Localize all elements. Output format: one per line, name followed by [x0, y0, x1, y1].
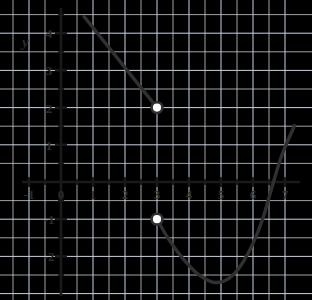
x-tick-label-6: 6 — [250, 187, 257, 202]
y-tick-label--2: -2 — [44, 249, 55, 264]
graph-figure: -101234567-2-11234 y — [0, 0, 312, 300]
y-tick-label-3: 3 — [46, 63, 53, 78]
x-tick-label-3: 3 — [154, 187, 161, 202]
x-tick-label--1: -1 — [24, 187, 35, 202]
y-tick-label-2: 2 — [46, 101, 53, 116]
y-tick-label--1: -1 — [44, 212, 55, 227]
x-tick-label-7: 7 — [282, 187, 289, 202]
x-tick-label-2: 2 — [122, 187, 129, 202]
x-tick-label-5: 5 — [218, 187, 225, 202]
y-tick-label-4: 4 — [46, 26, 53, 41]
y-axis-label: y — [20, 34, 29, 50]
x-tick-label-4: 4 — [186, 187, 193, 202]
x-tick-label-0: 0 — [58, 187, 65, 202]
y-tick-label-1: 1 — [46, 138, 53, 153]
coordinate-plane-svg: -101234567-2-11234 y — [0, 0, 312, 300]
x-tick-label-1: 1 — [90, 187, 97, 202]
open-circle-lower — [152, 214, 163, 225]
open-circle-upper — [152, 102, 163, 113]
